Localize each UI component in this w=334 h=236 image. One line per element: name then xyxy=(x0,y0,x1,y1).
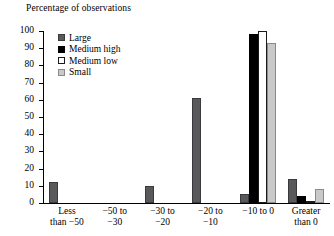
legend-item-large: Large xyxy=(58,32,120,44)
x-axis-label: −10 to 0 xyxy=(234,206,282,217)
y-tick-label-70: 70 xyxy=(8,77,34,87)
y-tick-label-0: 0 xyxy=(8,197,34,207)
bar-mediumhigh xyxy=(297,196,306,203)
bar-large xyxy=(192,98,201,203)
x-axis-label-line: than 0 xyxy=(282,217,330,228)
legend-item-small: Small xyxy=(58,67,120,79)
y-tick-label-50: 50 xyxy=(8,111,34,121)
legend-label: Large xyxy=(69,33,91,43)
y-axis-title: Percentage of observations xyxy=(26,3,131,13)
bar-mediumlow xyxy=(258,31,267,203)
x-axis-label-line: −30 xyxy=(91,217,139,228)
x-axis-label-line: −20 to xyxy=(187,206,235,217)
x-axis-labels: Lessthan −50−50 to−30−30 to−20−20 to−10−… xyxy=(43,206,330,236)
bar-group xyxy=(234,31,282,203)
x-axis-label-line: Less xyxy=(43,206,91,217)
x-axis-label-line: −10 to 0 xyxy=(234,206,282,217)
x-axis-label-line: −50 to xyxy=(91,206,139,217)
bar-large xyxy=(240,194,249,203)
x-axis-label: −20 to−10 xyxy=(187,206,235,228)
legend-swatch-icon xyxy=(58,69,65,76)
bar-large xyxy=(145,186,154,203)
x-axis-label-line: −10 xyxy=(187,217,235,228)
x-axis-label: Greaterthan 0 xyxy=(282,206,330,228)
legend-label: Medium high xyxy=(69,44,120,54)
legend-swatch-icon xyxy=(58,34,65,41)
legend-swatch-icon xyxy=(58,46,65,53)
bar-large xyxy=(49,182,58,203)
y-tick-label-90: 90 xyxy=(8,42,34,52)
x-axis-line xyxy=(43,203,330,204)
x-axis-label-line: −20 xyxy=(139,217,187,228)
y-tick-label-60: 60 xyxy=(8,94,34,104)
x-axis-label-line: −30 to xyxy=(139,206,187,217)
bar-group xyxy=(139,31,187,203)
legend-label: Small xyxy=(69,67,91,77)
bar-group xyxy=(187,31,235,203)
y-tick-label-10: 10 xyxy=(8,180,34,190)
y-tick-label-80: 80 xyxy=(8,59,34,69)
legend-item-medium-low: Medium low xyxy=(58,55,120,67)
y-tick-label-100: 100 xyxy=(8,25,34,35)
x-axis-label-line: than −50 xyxy=(43,217,91,228)
bar-small xyxy=(315,189,324,203)
bar-group xyxy=(282,31,330,203)
chart-legend: LargeMedium highMedium lowSmall xyxy=(58,32,120,78)
legend-swatch-icon xyxy=(58,57,65,64)
y-tick-label-20: 20 xyxy=(8,163,34,173)
y-tick-0 xyxy=(39,203,43,204)
y-tick-label-40: 40 xyxy=(8,128,34,138)
y-tick-label-30: 30 xyxy=(8,145,34,155)
bar-mediumlow xyxy=(306,201,315,203)
x-axis-label: −50 to−30 xyxy=(91,206,139,228)
x-axis-label: Lessthan −50 xyxy=(43,206,91,228)
chart-figure: Percentage of observations 0102030405060… xyxy=(0,0,334,236)
legend-item-medium-high: Medium high xyxy=(58,44,120,56)
bar-small xyxy=(267,43,276,203)
x-axis-label: −30 to−20 xyxy=(139,206,187,228)
legend-label: Medium low xyxy=(69,56,118,66)
bar-mediumhigh xyxy=(249,34,258,203)
x-axis-label-line: Greater xyxy=(282,206,330,217)
bar-large xyxy=(288,179,297,203)
